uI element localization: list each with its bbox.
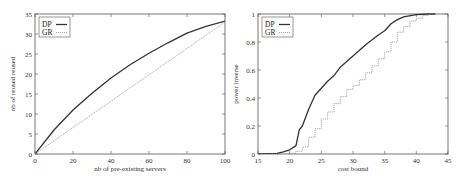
y-tick-label: 0.8: [246, 39, 255, 47]
y-tick-label: 30: [25, 31, 33, 39]
y-tick-label: 20: [25, 71, 33, 79]
x-axis-label: cost bound: [338, 165, 369, 173]
x-tick-label: 60: [146, 157, 154, 165]
x-tick-label: 0: [33, 157, 37, 165]
x-tick-label: 30: [350, 157, 358, 165]
y-tick-label: 15: [25, 91, 33, 99]
y-tick-label: 1: [252, 11, 256, 19]
y-tick-label: 35: [25, 11, 33, 19]
x-tick-label: 15: [255, 157, 263, 165]
chart-power-inverse: 1520253035404500.20.40.60.81cost boundpo…: [232, 0, 464, 185]
y-tick-label: 0.6: [246, 67, 255, 75]
x-tick-label: 40: [413, 157, 421, 165]
y-axis-label: power inverse: [232, 64, 240, 103]
legend: DPGR: [262, 17, 293, 37]
x-axis-label: nb of pre-existing servers: [94, 165, 166, 173]
x-tick-label: 20: [286, 157, 294, 165]
legend-label-gr: GR: [42, 28, 52, 37]
x-tick-label: 45: [445, 157, 453, 165]
y-tick-label: 0.4: [246, 95, 255, 103]
chart-left-canvas: 02040608010005101520253035nb of pre-exis…: [0, 0, 232, 185]
x-tick-label: 35: [381, 157, 389, 165]
x-tick-label: 20: [70, 157, 78, 165]
y-tick-label: 10: [25, 111, 33, 119]
chart-reused-servers: 02040608010005101520253035nb of pre-exis…: [0, 0, 232, 185]
y-axis-label: nb of reused reused: [9, 56, 17, 111]
y-tick-label: 0.2: [246, 123, 255, 131]
x-tick-label: 100: [220, 157, 231, 165]
y-tick-label: 0: [252, 151, 256, 159]
x-tick-label: 40: [108, 157, 116, 165]
legend-label-gr: GR: [265, 28, 275, 37]
y-tick-label: 0: [29, 151, 33, 159]
x-tick-label: 25: [318, 157, 326, 165]
series-line-gr: [35, 22, 225, 154]
y-tick-label: 5: [29, 131, 33, 139]
y-tick-label: 25: [25, 51, 33, 59]
legend: DPGR: [39, 17, 70, 37]
x-tick-label: 80: [184, 157, 192, 165]
chart-right-canvas: 1520253035404500.20.40.60.81cost boundpo…: [232, 0, 464, 185]
